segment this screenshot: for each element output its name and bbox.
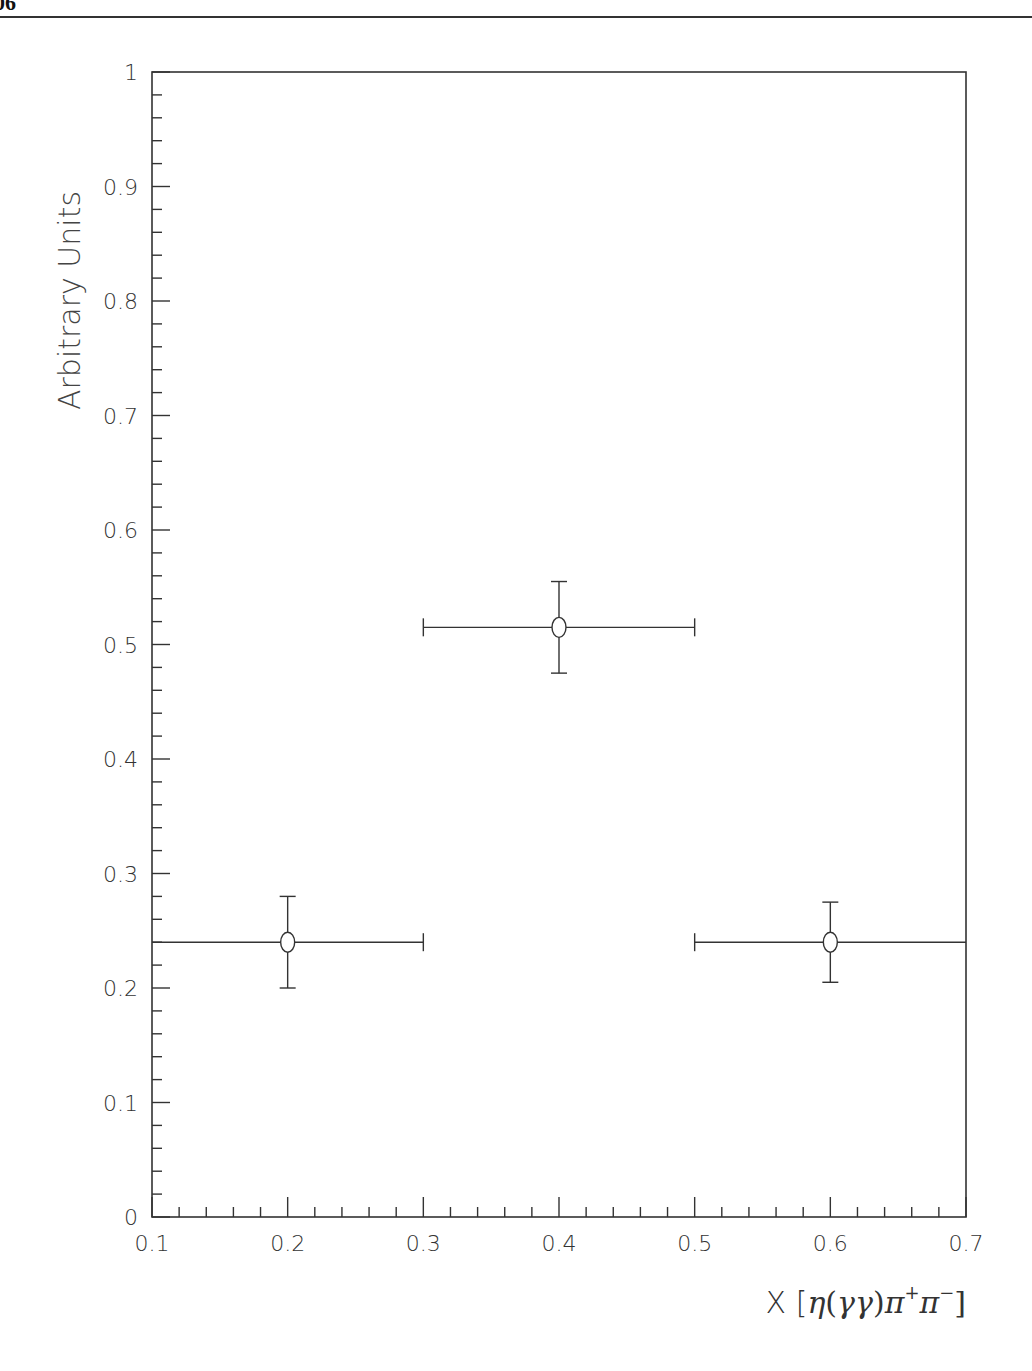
y-tick-label: 0.6 [103, 518, 138, 543]
x-axis-title: X [η(γγ)π+π−] [766, 1282, 966, 1320]
y-tick-label: 0.8 [103, 289, 138, 314]
x-axis-ticks [152, 1197, 966, 1217]
data-points [152, 582, 966, 988]
x-tick-label: 0.2 [270, 1231, 305, 1256]
y-tick-label: 0.5 [103, 633, 138, 658]
y-tick-label: 1 [124, 60, 138, 85]
data-point [695, 902, 966, 982]
y-tick-label: 0.4 [103, 747, 138, 772]
y-axis-ticks [152, 72, 170, 1217]
x-tick-label: 0.4 [542, 1231, 577, 1256]
y-tick-label: 0.3 [103, 862, 138, 887]
x-tick-label: 0.6 [813, 1231, 848, 1256]
y-tick-label: 0.2 [103, 976, 138, 1001]
y-tick-label: 0.7 [103, 404, 138, 429]
data-point [152, 896, 423, 988]
open-circle-marker [281, 932, 295, 952]
y-tick-label: 0.1 [103, 1091, 138, 1116]
y-axis-tick-labels: 00.10.20.30.40.50.60.70.80.91 [103, 60, 138, 1230]
data-point [423, 582, 694, 674]
y-axis-title: Arbitrary Units [52, 191, 87, 410]
x-axis-tick-labels: 0.10.20.30.40.50.60.7 [135, 1231, 984, 1256]
x-tick-label: 0.7 [949, 1231, 984, 1256]
open-circle-marker [552, 617, 566, 637]
x-tick-label: 0.1 [135, 1231, 170, 1256]
y-tick-label: 0.9 [103, 175, 138, 200]
open-circle-marker [823, 932, 837, 952]
chart: 00.10.20.30.40.50.60.70.80.91 0.10.20.30… [0, 0, 1032, 1371]
x-tick-label: 0.3 [406, 1231, 441, 1256]
y-tick-label: 0 [124, 1205, 138, 1230]
x-tick-label: 0.5 [677, 1231, 712, 1256]
